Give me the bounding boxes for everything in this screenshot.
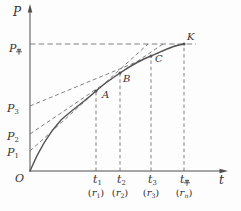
- p1-label-part: 1: [14, 152, 18, 160]
- point-label-A-part: A: [101, 89, 109, 100]
- pt-equilibrium-curve-figure: PtOPP3P2P1ABCKt1t2t3t(r1)(r2)(r3)(rn): [0, 0, 241, 211]
- tangent-at-B: [30, 44, 163, 134]
- t-axis-label: t: [219, 173, 224, 187]
- r3-label-part: ): [155, 187, 159, 198]
- p-axis-arrow-icon: [28, 4, 33, 13]
- p-axis-label: P: [12, 5, 22, 19]
- point-C: [150, 55, 153, 58]
- t-equilibrium-label: t: [180, 173, 185, 186]
- point-label-K: K: [186, 31, 195, 42]
- point-K: [183, 43, 186, 46]
- rn-label: (rn): [176, 187, 193, 199]
- r1-label-part: ): [100, 187, 104, 198]
- origin-label: O: [15, 172, 24, 185]
- figure-page: PtOPP3P2P1ABCKt1t2t3t(r1)(r2)(r3)(rn): [0, 0, 241, 211]
- point-label-B: B: [122, 73, 130, 84]
- p3-label-part: 3: [14, 108, 18, 116]
- r2-label-part: ): [124, 187, 128, 198]
- origin-label-part: O: [15, 172, 24, 185]
- point-label-C-part: C: [155, 53, 163, 64]
- point-A: [95, 90, 98, 93]
- p2-label: P2: [6, 130, 19, 144]
- t1-label: t1: [93, 173, 102, 187]
- r3-label: (r3): [143, 187, 160, 199]
- t3-label: t3: [148, 173, 157, 187]
- p3-label: P3: [6, 102, 19, 116]
- point-label-B-part: B: [122, 73, 130, 84]
- point-label-A: A: [101, 89, 109, 100]
- point-label-C: C: [155, 53, 163, 64]
- p1-label: P1: [6, 146, 19, 160]
- point-B: [119, 72, 122, 75]
- p-equilibrium-label: P: [8, 42, 17, 55]
- p-equilibrium-label-part: P: [8, 42, 17, 55]
- p-axis-label-part: P: [12, 5, 22, 19]
- point-label-K-part: K: [186, 31, 195, 42]
- r1-label: (r1): [88, 187, 105, 199]
- rn-label-part: ): [188, 187, 192, 198]
- r2-label: (r2): [112, 187, 129, 199]
- t-equilibrium-label-part: t: [180, 173, 185, 186]
- t2-label: t2: [117, 173, 126, 187]
- p2-label-part: 2: [14, 136, 18, 144]
- t-axis-label-part: t: [219, 173, 224, 187]
